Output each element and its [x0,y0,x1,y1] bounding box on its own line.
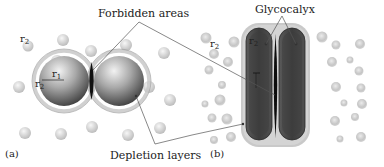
glycocalyx-label: Glycocalyx [255,3,316,16]
large-sphere-left [39,56,89,106]
forbidden-areas-label: Forbidden areas [98,7,190,20]
depletion-layers-label: Depletion layers [110,149,202,162]
r2-label-b-outer: r2 [210,38,219,51]
panel-a-label: (a) [5,148,19,159]
panel-b-label: (b) [210,148,224,159]
r2-label-a: r2 [20,33,29,46]
panel-b: r2 r2 (b) [201,23,368,159]
diagram-figure: r1 r2 r2 (a) [0,0,384,167]
panel-a: r1 r2 r2 (a) [5,33,176,159]
large-sphere-right [94,56,144,106]
